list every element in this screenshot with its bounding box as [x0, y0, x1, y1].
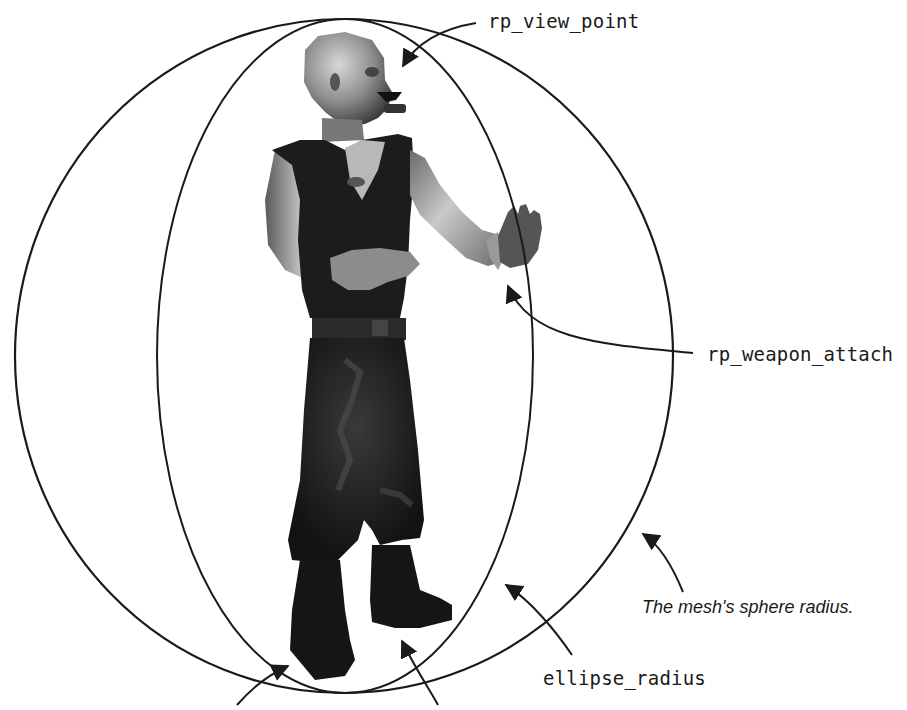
arrow-weapon-attach: [508, 286, 693, 353]
character-head: [304, 32, 392, 126]
label-rp-view-point: rp_view_point: [488, 10, 639, 32]
character-boot-right: [370, 545, 452, 628]
label-ellipse-radius: ellipse_radius: [543, 667, 706, 689]
character-hand-belly: [330, 248, 420, 290]
label-rp-weapon-attach: rp_weapon_attach: [707, 343, 893, 365]
arrow-sphere-radius: [643, 534, 683, 592]
character-mesh: [265, 32, 542, 680]
arrow-view-point: [403, 23, 476, 66]
caption-sphere-radius: The mesh's sphere radius.: [642, 597, 854, 618]
character-boot-left: [290, 560, 355, 680]
